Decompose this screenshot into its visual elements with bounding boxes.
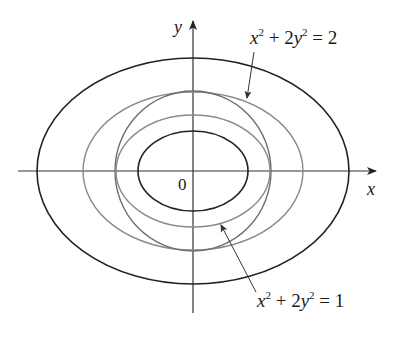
eq-upper-rhs: = 2: [308, 27, 338, 48]
eq-upper-y: y: [294, 27, 302, 48]
equation-label-lower: x2 + 2y2 = 1: [257, 291, 344, 310]
equation-label-upper: x2 + 2y2 = 2: [250, 28, 337, 47]
eq-lower-plus: + 2: [271, 290, 301, 311]
x-axis-label: x: [367, 180, 375, 198]
eq-lower-y: y: [301, 290, 309, 311]
eq-lower-rhs: = 1: [315, 290, 345, 311]
origin-label: 0: [178, 176, 187, 193]
eq-upper-plus: + 2: [264, 27, 294, 48]
upper-leader-arrow: [247, 52, 254, 98]
y-axis-label: y: [174, 18, 182, 36]
